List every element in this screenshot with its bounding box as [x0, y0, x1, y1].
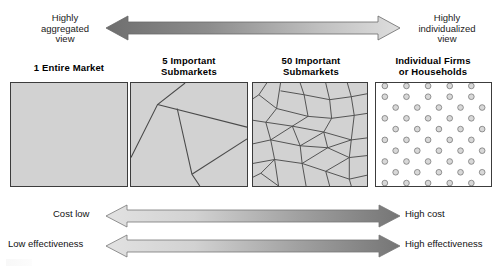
panel-title-3: 50 Important Submarkets — [252, 55, 370, 77]
panel-individual-firms — [375, 82, 492, 187]
effectiveness-continuum-arrow — [106, 233, 400, 259]
five-segment-lines — [131, 83, 247, 186]
aggregation-continuum-arrow — [106, 14, 400, 42]
scan-artifact — [6, 259, 32, 266]
effectiveness-arrow-left-label: Low effectiveness — [8, 238, 83, 249]
panel-title-4: Individual Firms or Households — [374, 55, 492, 77]
cost-arrow-right-label: High cost — [405, 208, 445, 219]
panel-title-1: 1 Entire Market — [10, 62, 128, 73]
cost-arrow-left-label: Cost low — [53, 208, 89, 219]
individual-unit-dots — [376, 83, 491, 186]
panel-entire-market — [10, 82, 128, 187]
top-arrow-left-label: Highly aggregated view — [28, 13, 102, 45]
cost-continuum-arrow — [106, 203, 400, 229]
top-arrow-right-label: Highly individualized view — [402, 13, 492, 45]
fifty-segment-lines — [253, 83, 367, 186]
diagram-canvas: Highly aggregated view Highly individual… — [0, 0, 500, 271]
panel-five-submarkets — [130, 82, 248, 187]
panel-title-2: 5 Important Submarkets — [130, 55, 248, 77]
panel-fifty-submarkets — [252, 82, 368, 187]
effectiveness-arrow-right-label: High effectiveness — [405, 238, 482, 249]
